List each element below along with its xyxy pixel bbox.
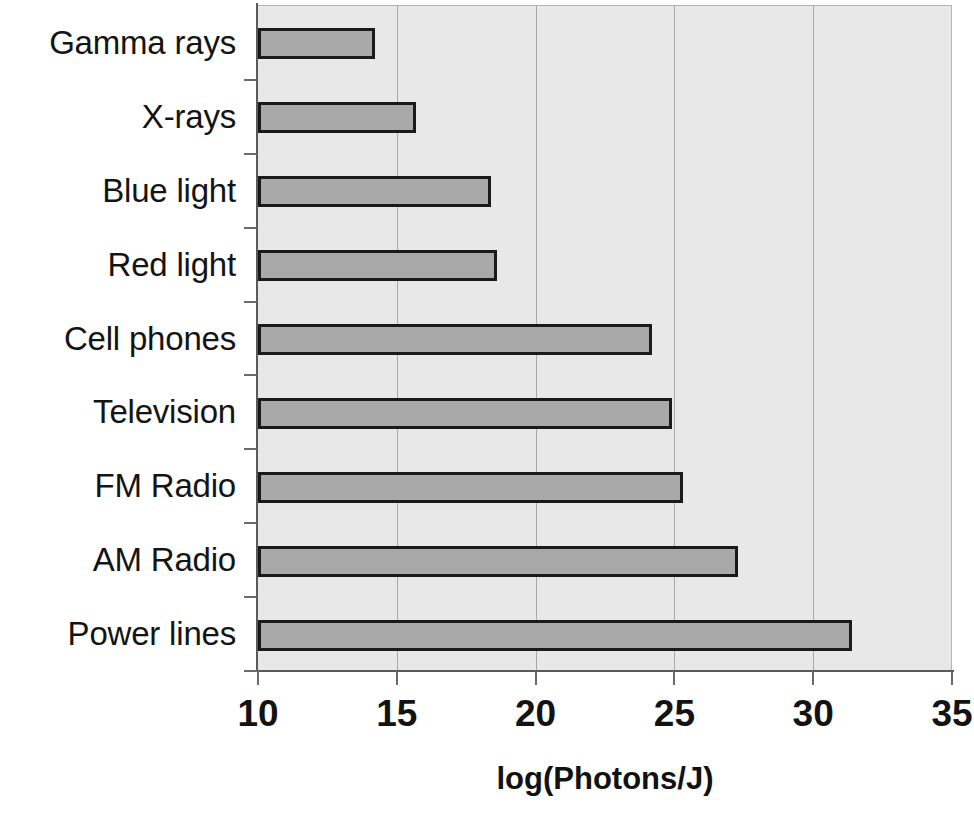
y-axis-tick bbox=[244, 596, 257, 598]
bar bbox=[258, 398, 672, 429]
bar bbox=[258, 472, 683, 503]
category-label: FM Radio bbox=[95, 469, 236, 502]
category-label: Gamma rays bbox=[49, 26, 236, 59]
bar bbox=[258, 546, 738, 577]
category-label: X-rays bbox=[142, 100, 236, 133]
category-label: Power lines bbox=[68, 617, 236, 650]
x-axis-tick bbox=[812, 671, 814, 685]
x-axis-tick-label: 35 bbox=[907, 694, 974, 734]
x-axis-tick bbox=[396, 671, 398, 685]
x-axis-tick bbox=[951, 671, 953, 685]
category-label: Red light bbox=[108, 248, 236, 281]
gridline-30 bbox=[813, 6, 814, 670]
y-axis-tick bbox=[244, 301, 257, 303]
category-label: Cell phones bbox=[64, 322, 236, 355]
y-axis-tick bbox=[244, 374, 257, 376]
y-axis-tick bbox=[244, 153, 257, 155]
x-axis-title: log(Photons/J) bbox=[258, 762, 952, 796]
x-axis-tick bbox=[535, 671, 537, 685]
x-axis-tick-label: 30 bbox=[768, 694, 858, 734]
bar bbox=[258, 250, 497, 281]
y-axis-tick bbox=[244, 448, 257, 450]
bar bbox=[258, 28, 375, 59]
x-axis-tick-label: 25 bbox=[629, 694, 719, 734]
y-axis-tick bbox=[244, 670, 257, 672]
y-axis-tick bbox=[244, 79, 257, 81]
category-label: Blue light bbox=[102, 174, 236, 207]
category-axis-labels: Gamma raysX-raysBlue lightRed lightCell … bbox=[0, 5, 246, 670]
x-axis-tick bbox=[673, 671, 675, 685]
x-axis-tick bbox=[257, 671, 259, 685]
y-axis-tick bbox=[244, 522, 257, 524]
plot-area bbox=[258, 5, 952, 670]
category-label: AM Radio bbox=[93, 543, 236, 576]
x-axis-tick-label: 15 bbox=[352, 694, 442, 734]
y-axis-line bbox=[256, 3, 258, 672]
x-axis-tick-label: 20 bbox=[491, 694, 581, 734]
bar bbox=[258, 324, 652, 355]
category-label: Television bbox=[93, 395, 236, 428]
y-axis-tick bbox=[244, 227, 257, 229]
bar bbox=[258, 620, 852, 651]
bar bbox=[258, 176, 491, 207]
bar bbox=[258, 102, 416, 133]
x-axis-line bbox=[256, 670, 954, 672]
x-axis-tick-label: 10 bbox=[213, 694, 303, 734]
bar-chart-figure: Gamma raysX-raysBlue lightRed lightCell … bbox=[0, 0, 974, 815]
